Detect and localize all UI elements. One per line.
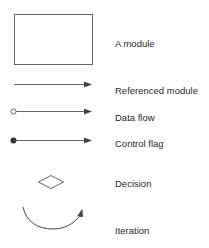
legend-label-control-flag: Control flag bbox=[115, 139, 164, 149]
legend-label-data-flow: Data flow bbox=[115, 113, 155, 123]
legend-label-referenced-module: Referenced module bbox=[115, 86, 198, 96]
legend-graphics bbox=[0, 0, 209, 248]
legend-label-iteration: Iteration bbox=[115, 226, 149, 236]
legend-label-module: A module bbox=[115, 39, 155, 49]
data-flow-arrow-icon bbox=[11, 109, 91, 114]
legend-label-decision: Decision bbox=[115, 179, 151, 189]
module-rectangle-icon bbox=[15, 15, 93, 65]
decision-diamond-icon bbox=[39, 176, 64, 189]
control-flag-arrow-icon bbox=[11, 138, 92, 144]
iteration-curved-arrow-icon bbox=[23, 207, 82, 229]
